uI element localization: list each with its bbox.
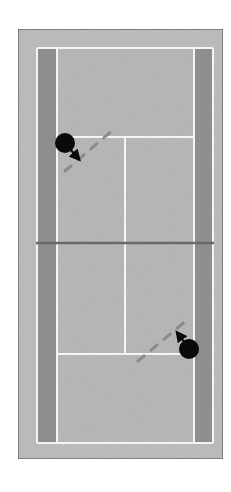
player-marker: [55, 133, 75, 153]
player-marker: [179, 339, 199, 359]
doubles-alley-right: [195, 49, 212, 442]
doubles-alley-left: [38, 49, 56, 442]
court-canvas: [0, 0, 231, 492]
tennis-court-diagram: [0, 0, 231, 492]
